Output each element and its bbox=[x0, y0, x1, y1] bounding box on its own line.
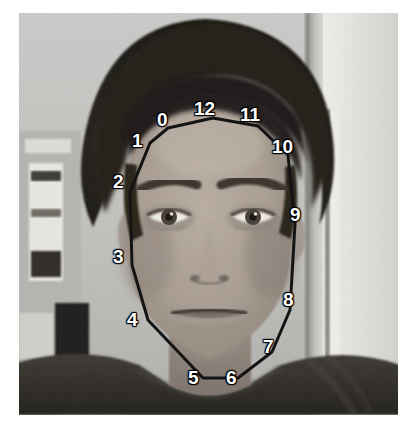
portrait-photograph bbox=[19, 13, 398, 415]
screenshot-canvas: 0 1 2 3 4 5 6 7 8 9 10 11 12 bbox=[0, 0, 416, 429]
photograph-rendering bbox=[19, 13, 398, 415]
